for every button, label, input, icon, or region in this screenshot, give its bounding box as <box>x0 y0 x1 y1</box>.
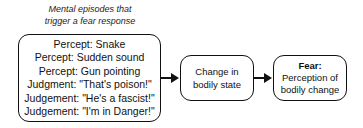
fear-line-1: Perception of <box>282 72 338 84</box>
episode-item: Percept: Snake <box>54 38 126 52</box>
episode-item: Judgement: "I'm in Danger!" <box>24 105 154 119</box>
episode-item: Judgement: "He's a fascist!" <box>24 92 154 106</box>
arrow-right-icon <box>254 77 270 79</box>
caption-line-1: Mental episodes that <box>20 3 160 15</box>
bodily-line-1: Change in <box>195 65 238 78</box>
fear-title: Fear: <box>298 60 321 72</box>
diagram-caption: Mental episodes that trigger a fear resp… <box>20 3 160 27</box>
episode-item: Judgment: "That's poison!" <box>27 78 151 92</box>
mental-episodes-box: Percept: Snake Percept: Sudden sound Per… <box>18 34 161 122</box>
bodily-line-2: bodily state <box>193 78 241 91</box>
episode-item: Percept: Gun pointing <box>39 65 141 79</box>
fear-box: Fear: Perception of bodily change <box>273 55 347 101</box>
caption-line-2: trigger a fear response <box>20 15 160 27</box>
fear-line-2: bodily change <box>281 84 340 96</box>
arrow-right-icon <box>161 77 177 79</box>
episode-item: Percept: Sudden sound <box>35 51 145 65</box>
bodily-state-box: Change in bodily state <box>180 55 254 101</box>
